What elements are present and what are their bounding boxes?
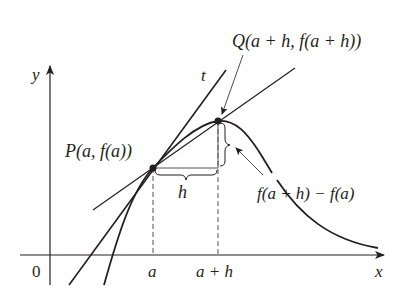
h-brace bbox=[155, 170, 217, 180]
x-axis-label: x bbox=[374, 262, 383, 281]
q-leader-arrow bbox=[222, 55, 243, 114]
h-label: h bbox=[178, 182, 187, 202]
point-p bbox=[150, 165, 157, 172]
secant-tangent-diagram: y x 0 a a + h t P(a, f(a)) Q(a + h, f(a … bbox=[0, 0, 404, 302]
point-q bbox=[215, 118, 222, 125]
y-axis-label: y bbox=[30, 65, 40, 84]
tangent-line bbox=[69, 70, 226, 285]
tick-label-a: a bbox=[148, 262, 157, 281]
tangent-label: t bbox=[201, 66, 207, 85]
function-curve-mid bbox=[258, 150, 272, 173]
origin-label: 0 bbox=[32, 262, 41, 281]
point-q-label: Q(a + h, f(a + h)) bbox=[232, 31, 361, 52]
rise-brace bbox=[220, 123, 230, 166]
rise-label: f(a + h) − f(a) bbox=[257, 184, 355, 203]
tick-label-a-plus-h: a + h bbox=[196, 262, 233, 281]
point-p-label: P(a, f(a)) bbox=[64, 141, 132, 162]
